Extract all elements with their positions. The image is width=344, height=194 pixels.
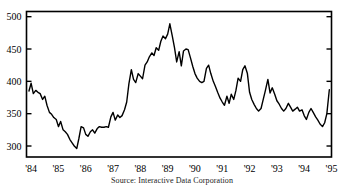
x-axis-labels: '84'85'86'87'88'89'90'91'92'93'94'95	[25, 163, 337, 174]
x-tick-label: '84	[25, 163, 37, 174]
x-tick-label: '93	[271, 163, 283, 174]
x-tick-label: '87	[107, 163, 119, 174]
x-tick-label: '92	[244, 163, 256, 174]
y-tick-label: 350	[7, 108, 22, 119]
x-tick-label: '89	[162, 163, 174, 174]
y-tick-label: 500	[7, 11, 22, 22]
line-chart: 300350400450500 '84'85'86'87'88'89'90'91…	[0, 0, 344, 194]
x-tick-label: '90	[189, 163, 201, 174]
figure-container: 300350400450500 '84'85'86'87'88'89'90'91…	[0, 0, 344, 194]
plot-frame	[27, 12, 332, 158]
chart-source-caption: Source: Interactive Data Corporation	[0, 176, 344, 186]
x-tick-label: '85	[53, 163, 65, 174]
x-tick-label: '86	[80, 163, 92, 174]
y-tick-label: 400	[7, 76, 22, 87]
y-axis-labels: 300350400450500	[7, 11, 22, 151]
x-tick-label: '94	[298, 163, 310, 174]
x-tick-label: '88	[134, 163, 146, 174]
y-tick-label: 300	[7, 141, 22, 152]
x-tick-label: '95	[326, 163, 338, 174]
x-tick-label: '91	[216, 163, 228, 174]
y-tick-label: 450	[7, 44, 22, 55]
